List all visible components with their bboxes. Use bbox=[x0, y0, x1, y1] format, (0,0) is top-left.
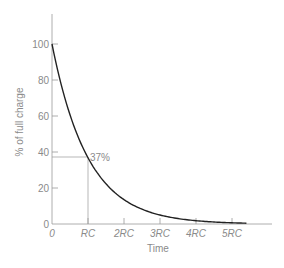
y-axis-title: % of full charge bbox=[14, 87, 25, 156]
y-tick-label: 20 bbox=[38, 183, 50, 194]
y-tick-label: 100 bbox=[32, 39, 49, 50]
x-tick-label: 3RC bbox=[150, 228, 171, 239]
y-tick-label: 60 bbox=[38, 111, 50, 122]
x-tick-label: 5RC bbox=[222, 228, 243, 239]
x-tick-label: 4RC bbox=[186, 228, 207, 239]
y-tick-label: 40 bbox=[38, 147, 50, 158]
x-tick-label: RC bbox=[81, 228, 96, 239]
discharge-curve bbox=[52, 44, 246, 223]
y-ticks: 020406080100 bbox=[32, 39, 58, 230]
x-tick-label: 0 bbox=[49, 228, 55, 239]
discharge-chart: 020406080100 0RC2RC3RC4RC5RC 37% Time % … bbox=[0, 0, 284, 268]
x-axis-title: Time bbox=[147, 243, 169, 254]
y-tick-label: 80 bbox=[38, 75, 50, 86]
x-ticks: 0RC2RC3RC4RC5RC bbox=[49, 218, 243, 239]
annotation-37-percent: 37% bbox=[90, 152, 110, 163]
guide-lines-37 bbox=[52, 157, 88, 224]
x-tick-label: 2RC bbox=[113, 228, 135, 239]
